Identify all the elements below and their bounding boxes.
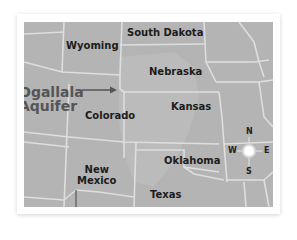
state-label-new-mexico-line1: New	[77, 164, 116, 175]
compass-south: S	[246, 168, 252, 176]
state-label-new-mexico: New Mexico	[77, 164, 116, 186]
state-label-colorado: Colorado	[85, 110, 135, 121]
aquifer-label-line1: Ogallala	[24, 85, 84, 99]
arrow-icon	[82, 85, 118, 95]
compass-north: N	[246, 128, 253, 136]
state-label-kansas: Kansas	[171, 101, 211, 112]
state-borders	[24, 22, 273, 207]
compass-center-icon	[242, 144, 256, 158]
state-label-south-dakota: South Dakota	[127, 27, 203, 38]
state-label-wyoming: Wyoming	[66, 40, 119, 51]
state-label-nebraska: Nebraska	[149, 66, 202, 77]
state-label-oklahoma: Oklahoma	[164, 155, 220, 166]
compass-west: W	[228, 147, 237, 155]
compass-east: E	[264, 147, 269, 155]
aquifer-label-line2: Aquifer	[24, 99, 84, 113]
compass-rose: N S W E	[228, 128, 272, 178]
map-area: South Dakota Wyoming Nebraska Colorado K…	[24, 22, 273, 207]
state-label-new-mexico-line2: Mexico	[77, 175, 116, 186]
ogallala-aquifer-label: Ogallala Aquifer	[24, 85, 84, 113]
state-label-texas: Texas	[150, 189, 181, 200]
